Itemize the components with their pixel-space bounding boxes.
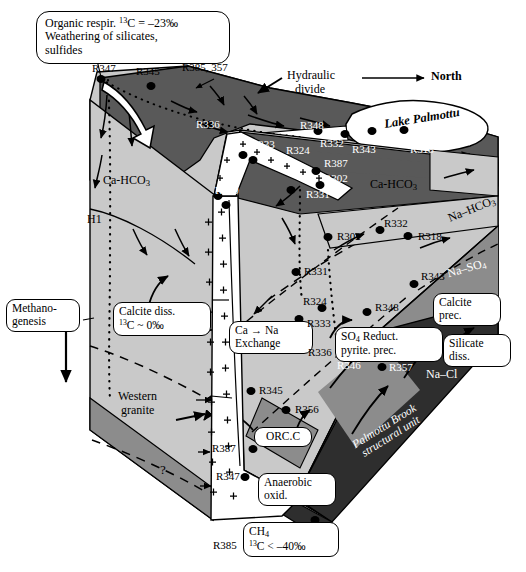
well-label-R318-top: R318 bbox=[410, 144, 434, 156]
well-dot bbox=[378, 363, 387, 371]
well-label-R343-mid: R343 bbox=[421, 271, 445, 283]
callout-text: Ca → Na bbox=[235, 324, 307, 337]
well-label-R336-mid: R336 bbox=[308, 347, 332, 359]
western-granite-label-2: granite bbox=[121, 404, 154, 417]
subscript: 4 bbox=[265, 530, 269, 539]
facies-label-ca-hco3-upper: Ca-HCO3 bbox=[103, 174, 150, 188]
callout-text: prec. bbox=[439, 309, 495, 322]
well-dot bbox=[239, 151, 248, 159]
well-dot bbox=[147, 82, 156, 90]
callout-calcite-dissolution: Calcite diss. 13C ~ 0‰ bbox=[113, 302, 211, 336]
well-label-R302-up: R302 bbox=[324, 173, 348, 185]
well-label-R340: R340 bbox=[215, 185, 239, 197]
uncertainty-question-mark: ? bbox=[160, 463, 166, 477]
well-label-R302-mid: R302 bbox=[337, 231, 361, 243]
callout-text: Reduct. bbox=[360, 330, 398, 342]
well-label-R333-mid: R333 bbox=[307, 318, 331, 330]
well-dot bbox=[368, 127, 377, 135]
well-label-R318-mid: R318 bbox=[418, 231, 442, 243]
callout-text: CH bbox=[249, 525, 265, 537]
well-label-R356: R356 bbox=[295, 404, 319, 416]
isotope-superscript: 13 bbox=[249, 539, 257, 548]
callout-text: Weathering of silicates, bbox=[45, 30, 221, 44]
callout-text: Calcite bbox=[439, 296, 495, 309]
well-dot bbox=[249, 156, 258, 164]
well-label-R347-top: R347 bbox=[92, 63, 116, 75]
callout-organic-respiration: Organic respir. 13C = –23‰ Weathering of… bbox=[36, 11, 230, 64]
well-label-R357: R357 bbox=[389, 362, 413, 374]
callout-text: Calcite diss. bbox=[119, 305, 205, 318]
well-dot bbox=[404, 232, 413, 240]
callout-organic-carbon: ORC.C bbox=[254, 427, 312, 447]
callout-sulfate-reduction: SO4 Reduct. pyrite. prec. bbox=[335, 327, 443, 362]
facies-label-na-cl: Na–Cl bbox=[426, 368, 457, 381]
well-label-R343-top: R343 bbox=[352, 144, 376, 156]
callout-text: diss. bbox=[449, 350, 505, 363]
well-label-R336-top: R336 bbox=[196, 119, 220, 131]
h1-horizon-label: H1 bbox=[87, 213, 102, 226]
callout-anaerobic-oxidation: Anaerobic oxid. bbox=[258, 473, 336, 506]
well-label-R345-mid: R345 bbox=[259, 385, 283, 397]
well-label-R348-mid: R348 bbox=[375, 302, 399, 314]
well-label-R331-mid: R331 bbox=[304, 266, 328, 278]
callout-text: sulfides bbox=[45, 44, 221, 58]
callout-text: Anaerobic bbox=[264, 476, 330, 489]
north-arrow-label: North bbox=[431, 70, 462, 83]
well-label-R345-top: R345 bbox=[136, 66, 160, 78]
block-diagram-figure: Organic respir. 13C = –23‰ Weathering of… bbox=[0, 0, 526, 572]
well-label-R324-top: R324 bbox=[286, 145, 310, 157]
well-dot bbox=[282, 406, 291, 414]
well-dot bbox=[324, 233, 333, 241]
hydraulic-divide-label-1: Hydraulic bbox=[287, 69, 335, 82]
well-dot bbox=[241, 473, 250, 481]
callout-methane: CH4 13C < –40‰ bbox=[243, 522, 339, 557]
western-granite-label-1: Western bbox=[118, 390, 157, 403]
callout-text: Exchange bbox=[235, 337, 307, 350]
well-label-R332-top: R332 bbox=[320, 138, 344, 150]
well-label-R387-up: R387 bbox=[324, 158, 348, 170]
callout-text: pyrite. prec. bbox=[341, 344, 437, 357]
well-label-R333: R333 bbox=[251, 139, 275, 151]
well-dot bbox=[312, 167, 321, 175]
callout-text: genesis bbox=[12, 315, 74, 328]
isotope-superscript: 13 bbox=[119, 318, 127, 327]
well-label-R348-top: R348 bbox=[300, 120, 324, 132]
well-label-R347-low: R347 bbox=[216, 471, 240, 483]
callout-methanogenesis: Methano- genesis bbox=[6, 299, 80, 332]
well-dot bbox=[287, 186, 296, 194]
well-dot bbox=[363, 308, 372, 316]
callout-ca-na-exchange: Ca → Na Exchange bbox=[229, 321, 313, 354]
callout-silicate-dissolution: Silicate diss. bbox=[443, 334, 511, 367]
callout-text: oxid. bbox=[264, 489, 330, 502]
callout-calcite-precipitation: Calcite prec. bbox=[433, 293, 501, 326]
well-dot bbox=[292, 268, 301, 276]
well-dot bbox=[249, 445, 258, 453]
well-label-R331-up: R331 bbox=[306, 189, 330, 201]
well-dot bbox=[410, 280, 419, 288]
callout-text: C = –23‰ bbox=[127, 16, 178, 30]
well-label-R385-low: R385 bbox=[213, 540, 237, 552]
callout-text: ORC.C bbox=[260, 430, 306, 443]
well-label-R346: R346 bbox=[337, 360, 361, 372]
callout-text: C ~ 0‰ bbox=[127, 319, 164, 331]
callout-text: Methano- bbox=[12, 302, 74, 315]
hydraulic-divide-label-2: divide bbox=[295, 83, 325, 96]
well-label-R385-357: R385, 357 bbox=[182, 62, 228, 74]
well-dot bbox=[247, 387, 256, 395]
well-dot bbox=[222, 201, 231, 209]
well-label-R324-mid: R324 bbox=[303, 296, 327, 308]
callout-text: Silicate bbox=[449, 337, 505, 350]
callout-text: Organic respir. bbox=[45, 16, 119, 30]
callout-text: C < –40‰ bbox=[257, 540, 306, 552]
callout-text: SO bbox=[341, 330, 356, 342]
well-label-R387-low: R387 bbox=[212, 443, 236, 455]
facies-label-ca-hco3-right: Ca-HCO3 bbox=[370, 178, 417, 192]
well-label-R332-mid: R332 bbox=[384, 218, 408, 230]
